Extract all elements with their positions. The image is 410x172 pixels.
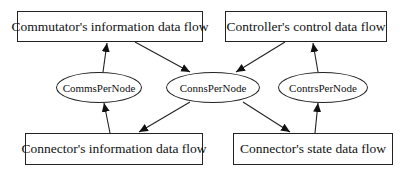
edge-controller-to-conns — [236, 42, 285, 72]
node-connector-state-data-flow: Connector's state data flow — [233, 133, 393, 165]
edge-connector-info-to-comms — [104, 103, 110, 133]
edge-contrs-to-controller — [313, 43, 318, 72]
data-flow-diagram: Commutator's information data flow Contr… — [0, 0, 410, 172]
node-comms-per-node: CommsPerNode — [56, 72, 142, 103]
node-label: ContrsPerNode — [289, 82, 357, 94]
node-controller-control-data-flow: Controller's control data flow — [225, 11, 387, 42]
node-conns-per-node: ConnsPerNode — [166, 72, 260, 103]
node-label: ConnsPerNode — [180, 82, 247, 94]
edge-commutator-to-conns — [135, 42, 190, 72]
edge-conns-to-connector-info — [139, 102, 190, 132]
node-commutator-information-data-flow: Commutator's information data flow — [17, 11, 203, 42]
edge-conns-to-connector-state — [243, 102, 290, 132]
node-label: Connector's information data flow — [22, 141, 207, 157]
edge-connector-state-to-contrs — [315, 103, 318, 133]
node-label: CommsPerNode — [63, 82, 136, 94]
node-contrs-per-node: ContrsPerNode — [278, 72, 368, 103]
node-label: Controller's control data flow — [227, 19, 386, 35]
node-connector-information-data-flow: Connector's information data flow — [25, 133, 203, 165]
node-label: Connector's state data flow — [240, 141, 386, 157]
edge-comms-to-commutator — [103, 43, 107, 72]
node-label: Commutator's information data flow — [11, 19, 208, 35]
